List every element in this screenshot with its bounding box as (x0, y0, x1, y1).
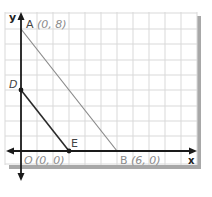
y-axis-label: y (9, 11, 16, 24)
point-b-label: B (120, 154, 128, 167)
point-o-label: O (24, 154, 33, 167)
coordinate-diagram: y x A (0, 8) D E O (0, 0) B (6, 0) (0, 0, 212, 197)
point-a-coords: (0, 8) (37, 18, 67, 31)
point-d-label: D (9, 78, 17, 91)
point-e-label: E (71, 137, 78, 150)
y-axis-down-arrow-icon (18, 173, 25, 181)
point-d-marker (19, 88, 24, 93)
x-axis-label: x (188, 155, 195, 166)
point-o-coords: (0, 0) (35, 154, 65, 167)
point-a-label: A (26, 18, 34, 31)
point-b-coords: (6, 0) (131, 154, 161, 167)
